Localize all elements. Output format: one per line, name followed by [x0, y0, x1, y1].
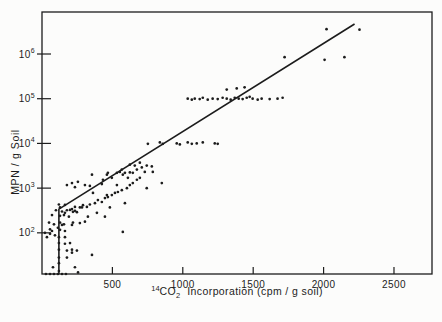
- data-point: [213, 142, 216, 145]
- data-point: [72, 221, 75, 224]
- data-point: [57, 226, 60, 229]
- data-point: [147, 142, 150, 145]
- data-point: [59, 206, 62, 209]
- plot-frame: [42, 12, 432, 274]
- data-point: [66, 256, 69, 259]
- data-point: [216, 98, 219, 101]
- data-point: [276, 97, 279, 100]
- data-point: [89, 203, 92, 206]
- data-point: [225, 97, 228, 100]
- data-point: [48, 221, 51, 224]
- data-point: [58, 270, 61, 273]
- figure-page: 5001000150020002500102103104105106 MPN /…: [0, 0, 442, 322]
- fit-line: [59, 24, 355, 274]
- data-point: [102, 178, 105, 181]
- data-point: [136, 168, 139, 171]
- data-point: [211, 97, 214, 100]
- data-point: [121, 231, 124, 234]
- data-point: [107, 171, 110, 174]
- data-point: [79, 222, 82, 225]
- data-point: [160, 182, 163, 185]
- data-point: [116, 184, 119, 187]
- data-point: [71, 248, 74, 251]
- data-point: [198, 98, 201, 101]
- data-point: [109, 206, 112, 209]
- data-point: [51, 230, 54, 233]
- data-point: [237, 97, 240, 100]
- data-point: [49, 232, 52, 235]
- data-point: [91, 254, 94, 257]
- data-point: [64, 236, 67, 239]
- data-point: [55, 209, 58, 212]
- data-point: [150, 165, 153, 168]
- data-point: [343, 56, 346, 59]
- data-point: [110, 194, 113, 197]
- data-point: [66, 209, 69, 212]
- x-tick-label: 2500: [382, 279, 406, 290]
- data-point: [221, 96, 224, 99]
- data-point: [216, 142, 219, 145]
- data-point: [126, 187, 129, 190]
- data-point: [201, 96, 204, 99]
- data-point: [64, 242, 67, 245]
- data-point: [74, 186, 77, 189]
- data-point: [68, 215, 71, 218]
- data-point: [52, 266, 55, 269]
- data-point: [131, 171, 134, 174]
- data-point: [139, 161, 142, 164]
- data-point: [120, 189, 123, 192]
- data-point: [69, 242, 72, 245]
- data-point: [59, 228, 62, 231]
- data-point: [92, 192, 95, 195]
- data-point: [58, 262, 61, 265]
- y-tick-label: 103: [19, 181, 35, 194]
- data-point: [248, 96, 251, 99]
- data-point: [190, 98, 193, 101]
- data-point: [139, 176, 142, 179]
- data-point: [66, 184, 69, 187]
- data-point: [114, 192, 117, 195]
- data-point: [100, 201, 103, 204]
- data-point: [94, 202, 97, 205]
- data-point: [44, 231, 47, 234]
- data-point: [76, 249, 79, 252]
- x-axis-title-subscript: 2: [176, 291, 180, 300]
- data-point: [140, 166, 143, 169]
- data-point: [72, 210, 75, 213]
- y-tick-label: 106: [19, 47, 35, 60]
- data-point: [71, 251, 74, 254]
- data-point: [117, 191, 120, 194]
- data-point: [77, 271, 80, 274]
- data-point: [325, 28, 328, 31]
- data-point: [69, 209, 72, 212]
- data-point: [77, 181, 80, 184]
- data-point: [59, 221, 62, 224]
- x-axis-title: 14CO2Incorporation (cpm / g soil): [151, 284, 323, 300]
- data-point: [65, 273, 68, 276]
- data-point: [233, 96, 236, 99]
- data-point: [110, 176, 113, 179]
- data-point: [79, 206, 82, 209]
- data-point: [260, 97, 263, 100]
- y-tick-label: 104: [19, 136, 35, 149]
- data-point: [124, 171, 127, 174]
- data-point: [193, 97, 196, 100]
- data-point: [91, 173, 94, 176]
- data-point: [229, 98, 232, 101]
- data-point: [87, 215, 90, 218]
- data-point: [64, 230, 67, 233]
- data-point: [104, 197, 107, 200]
- data-point: [256, 98, 259, 101]
- data-point: [64, 204, 67, 207]
- data-point: [129, 163, 132, 166]
- data-point: [129, 171, 132, 174]
- data-point: [283, 56, 286, 59]
- data-point: [241, 98, 244, 101]
- data-point: [86, 206, 89, 209]
- data-point: [96, 211, 99, 214]
- data-point: [131, 182, 134, 185]
- data-point: [133, 164, 136, 167]
- data-point: [186, 141, 189, 144]
- x-tick-label: 500: [103, 279, 121, 290]
- data-point: [268, 98, 271, 101]
